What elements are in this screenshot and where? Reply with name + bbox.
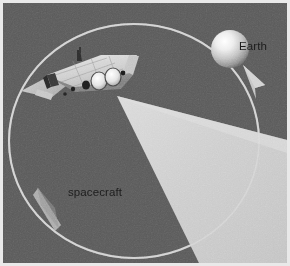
image-border: [0, 0, 290, 266]
figure-canvas: Earth spacecraft: [0, 0, 290, 266]
